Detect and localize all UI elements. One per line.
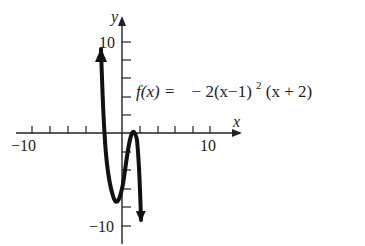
equation-lhs: f(x) =	[136, 82, 175, 101]
y-max-label: 10	[99, 34, 115, 51]
x-axis-label: x	[232, 113, 240, 130]
equation-exponent: 2	[256, 79, 262, 91]
svg-text:f(x) = − 2(x−1) 2: f(x) = − 2(x−1) 2 (x + 2)	[136, 74, 312, 101]
x-axis	[16, 126, 240, 133]
x-max-label: 10	[200, 137, 216, 154]
y-min-label: −10	[89, 218, 114, 235]
function-equation: f(x) = − 2(x−1) 2 (x + 2)	[136, 74, 312, 101]
y-axis-label: y	[109, 8, 119, 26]
y-axis	[122, 18, 131, 244]
function-plot: y x −10 10 10 −10 f(x) = − 2(x−1) 2 (x +…	[0, 0, 365, 246]
equation-rhs: − 2(x−1)	[192, 82, 252, 101]
x-axis-ticks	[32, 126, 210, 133]
equation-tail: (x + 2)	[266, 82, 312, 101]
function-curve	[101, 49, 141, 220]
x-min-label: −10	[11, 137, 36, 154]
